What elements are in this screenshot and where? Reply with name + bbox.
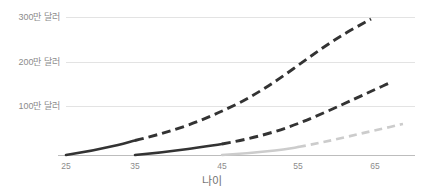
x-tick-label-35: 35: [121, 161, 149, 171]
x-tick-label-45: 45: [208, 161, 236, 171]
gridlines: [66, 18, 415, 107]
x-tick-label-25: 25: [52, 161, 80, 171]
y-tick-label-100: 100만 달러: [8, 101, 60, 111]
series-3-dashed-segment: [298, 124, 403, 147]
line-chart: 300만 달러 200만 달러 100만 달러 25 35 45 55 65 나…: [0, 0, 423, 195]
series-1-solid-segment: [66, 141, 135, 156]
series-2-line: [135, 82, 392, 155]
x-tick-label-65: 65: [361, 161, 389, 171]
series-3-line: [222, 124, 403, 155]
x-tick-label-55: 55: [284, 161, 312, 171]
x-axis-title: 나이: [0, 172, 423, 188]
series-1-dashed-segment: [135, 19, 371, 141]
y-tick-label-200: 200만 달러: [8, 57, 60, 67]
y-tick-label-300: 300만 달러: [8, 12, 60, 22]
series-2-dashed-segment: [222, 82, 392, 144]
series-1-line: [66, 19, 371, 155]
series-3-solid-segment: [222, 147, 298, 155]
series-2-solid-segment: [135, 144, 222, 155]
